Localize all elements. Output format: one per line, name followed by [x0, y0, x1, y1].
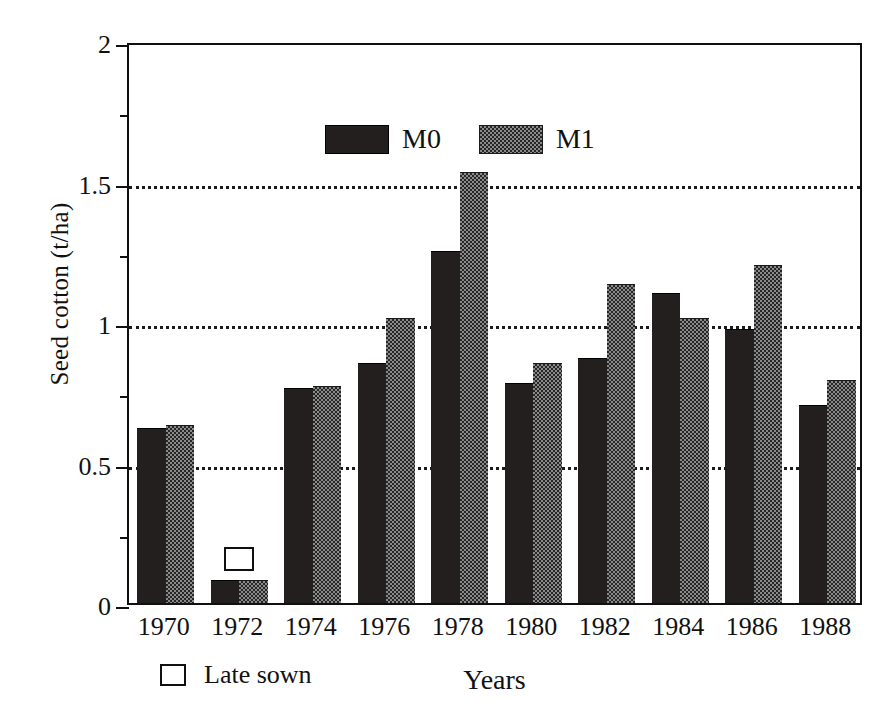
bar-group	[129, 45, 203, 603]
x-axis-tick-labels: 1970197219741976197819801982198419861988	[127, 612, 862, 652]
bar-m0-1974	[284, 388, 312, 603]
legend-swatch-m0	[325, 125, 389, 154]
late-sown-marker	[224, 547, 254, 571]
y-tick-major	[116, 45, 129, 47]
bar-group	[791, 45, 865, 603]
x-tick-label: 1970	[138, 612, 190, 642]
plot-area: 00.511.52 M0M1	[127, 43, 862, 605]
bar-m1-1980	[533, 363, 561, 603]
chart-figure: Seed cotton (t/ha) 00.511.52 M0M1 197019…	[0, 0, 894, 728]
y-tick-major	[116, 186, 129, 188]
y-tick-major	[116, 607, 129, 609]
chart-legend: M0M1	[325, 123, 595, 155]
bar-m1-1986	[754, 265, 782, 603]
bar-m0-1988	[799, 405, 827, 603]
y-tick-label: 0	[98, 592, 111, 622]
y-tick-minor	[120, 537, 129, 539]
bar-m0-1986	[725, 329, 753, 603]
y-axis-title: Seed cotton (t/ha)	[46, 144, 74, 444]
bar-m1-1974	[313, 386, 341, 603]
bar-m0-1978	[431, 251, 459, 603]
bar-group	[644, 45, 718, 603]
bar-m1-1978	[460, 172, 488, 603]
y-tick-label: 0.5	[79, 452, 112, 482]
legend-label-m0: M0	[402, 123, 441, 155]
y-tick-label: 1	[98, 311, 111, 341]
bar-m1-1984	[680, 318, 708, 603]
x-tick-label: 1986	[726, 612, 778, 642]
y-tick-major	[116, 326, 129, 328]
open-square-icon	[160, 664, 186, 686]
bar-m0-1972	[211, 580, 239, 603]
x-tick-label: 1974	[285, 612, 337, 642]
bar-m0-1970	[137, 428, 165, 603]
x-tick-label: 1982	[579, 612, 631, 642]
late-sown-label: Late sown	[204, 660, 312, 690]
y-tick-major	[116, 467, 129, 469]
x-tick-label: 1972	[211, 612, 263, 642]
bar-group	[203, 45, 277, 603]
bar-m1-1982	[607, 284, 635, 603]
y-tick-minor	[120, 256, 129, 258]
y-tick-label: 1.5	[79, 171, 112, 201]
legend-label-m1: M1	[556, 123, 595, 155]
bar-m1-1972	[239, 580, 267, 603]
x-tick-label: 1984	[652, 612, 704, 642]
x-tick-label: 1980	[505, 612, 557, 642]
y-tick-minor	[120, 396, 129, 398]
late-sown-legend: Late sown	[160, 660, 312, 690]
bar-group	[717, 45, 791, 603]
legend-item-m0: M0	[325, 123, 441, 155]
y-tick-minor	[120, 115, 129, 117]
x-tick-label: 1978	[432, 612, 484, 642]
bar-m0-1976	[358, 363, 386, 603]
legend-item-m1: M1	[479, 123, 595, 155]
bar-m0-1980	[505, 383, 533, 603]
bar-m1-1970	[166, 425, 194, 603]
bar-m1-1988	[827, 380, 855, 603]
bar-m1-1976	[386, 318, 414, 603]
bar-m0-1982	[578, 358, 606, 603]
bar-m0-1984	[652, 293, 680, 603]
x-tick-label: 1988	[799, 612, 851, 642]
x-tick-label: 1976	[358, 612, 410, 642]
legend-swatch-m1	[479, 125, 543, 154]
y-tick-label: 2	[98, 30, 111, 60]
